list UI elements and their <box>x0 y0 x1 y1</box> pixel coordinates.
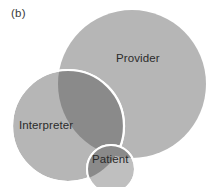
set-label-provider: Provider <box>116 52 160 64</box>
set-label-interpreter: Interpreter <box>19 119 73 131</box>
venn-diagram-figure: (b) Provider Interpreter Patient <box>0 0 207 187</box>
panel-label: (b) <box>11 7 26 19</box>
set-label-patient: Patient <box>92 153 129 165</box>
